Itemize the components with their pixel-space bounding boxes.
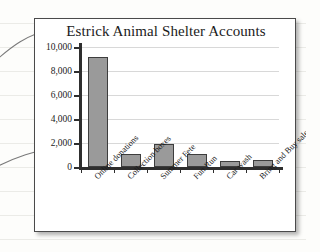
chart-title: Estrick Animal Shelter Accounts (35, 23, 297, 40)
y-axis-tick-label: 6,000 (51, 90, 72, 100)
gridline (81, 47, 279, 48)
x-axis-tick (279, 168, 280, 173)
gridline (81, 95, 279, 96)
y-axis-tick (74, 95, 80, 97)
plot-area: 02,0004,0006,0008,00010,000 Online donat… (81, 47, 279, 167)
x-axis-tick (114, 168, 115, 173)
y-axis-tick (74, 119, 80, 121)
y-axis-tick (74, 143, 80, 145)
y-axis-tick (74, 167, 80, 169)
gridline (81, 71, 279, 72)
chart-card: Estrick Animal Shelter Accounts 02,0004,… (34, 18, 296, 232)
y-axis-tick (74, 47, 80, 49)
x-axis-tick (180, 168, 181, 173)
y-axis-tick-label: 10,000 (46, 42, 72, 52)
bar (88, 57, 108, 167)
y-axis-tick-label: 8,000 (51, 66, 72, 76)
y-axis-tick-label: 0 (67, 162, 72, 172)
y-axis-tick-label: 2,000 (51, 138, 72, 148)
y-axis-line (79, 43, 82, 169)
x-axis-tick (147, 168, 148, 173)
gridline (81, 143, 279, 144)
x-axis-tick (246, 168, 247, 173)
y-axis-tick-label: 4,000 (51, 114, 72, 124)
x-axis-tick (213, 168, 214, 173)
gridline (81, 119, 279, 120)
x-axis-tick (81, 168, 82, 173)
y-axis-tick (74, 71, 80, 73)
